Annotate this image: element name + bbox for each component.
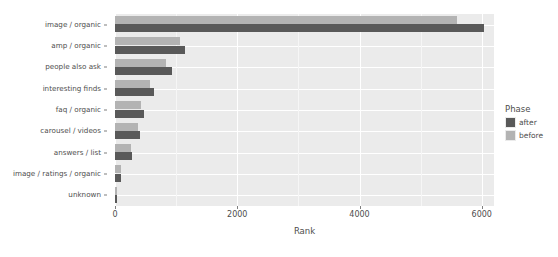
- y-axis-tick-mark: [104, 67, 107, 68]
- gridline-y: [115, 67, 494, 68]
- bar-before: [115, 123, 138, 131]
- legend-title: Phase: [505, 104, 555, 114]
- gridline-y: [115, 89, 494, 90]
- y-axis-tick-label: people also ask: [0, 63, 101, 71]
- gridline-y: [115, 131, 494, 132]
- y-axis-tick-mark: [104, 88, 107, 89]
- plot-panel: [115, 14, 494, 206]
- x-axis-tick-mark: [482, 206, 483, 209]
- legend-key: [505, 130, 516, 141]
- y-axis-tick-label: image / organic: [0, 21, 101, 29]
- bar-before: [115, 16, 457, 24]
- bar-after: [115, 152, 132, 160]
- bar-before: [115, 187, 117, 195]
- y-axis-tick-mark: [104, 24, 107, 25]
- legend-item: before: [505, 130, 555, 141]
- legend: Phase afterbefore: [505, 104, 555, 143]
- bar-before: [115, 80, 150, 88]
- y-axis-tick-label: answers / list: [0, 149, 101, 157]
- x-axis-tick-label: 2000: [217, 210, 257, 219]
- x-axis-tick-label: 6000: [462, 210, 502, 219]
- gridline-x-minor: [421, 14, 422, 206]
- bar-after: [115, 131, 140, 139]
- bar-before: [115, 37, 180, 45]
- bar-before: [115, 144, 131, 152]
- x-axis-title: Rank: [115, 226, 494, 236]
- y-axis-tick-label: carousel / videos: [0, 127, 101, 135]
- x-axis-tick-label: 4000: [340, 210, 380, 219]
- bar-before: [115, 101, 141, 109]
- bar-after: [115, 195, 117, 203]
- x-axis-tick-mark: [237, 206, 238, 209]
- gridline-x-minor: [298, 14, 299, 206]
- gridline-y: [115, 195, 494, 196]
- x-axis-tick-label: 0: [95, 210, 135, 219]
- bar-after: [115, 174, 121, 182]
- y-axis-tick-mark: [104, 174, 107, 175]
- legend-items: afterbefore: [505, 117, 555, 141]
- y-axis-tick-mark: [104, 131, 107, 132]
- gridline-x: [482, 14, 483, 206]
- legend-label: after: [519, 118, 537, 127]
- y-axis-tick-label: unknown: [0, 191, 101, 199]
- gridline-y: [115, 110, 494, 111]
- bar-before: [115, 59, 166, 67]
- y-axis-tick-mark: [104, 46, 107, 47]
- gridline-y: [115, 153, 494, 154]
- bar-after: [115, 88, 154, 96]
- gridline-x: [360, 14, 361, 206]
- bar-after: [115, 110, 144, 118]
- bar-after: [115, 67, 172, 75]
- legend-key: [505, 117, 516, 128]
- y-axis-tick-mark: [104, 152, 107, 153]
- y-axis: image / organicamp / organicpeople also …: [0, 14, 110, 206]
- bar-before: [115, 165, 121, 173]
- y-axis-tick-label: amp / organic: [0, 42, 101, 50]
- x-axis: 0200040006000: [115, 206, 494, 222]
- legend-swatch-before: [506, 131, 515, 140]
- legend-swatch-after: [506, 118, 515, 127]
- bar-after: [115, 46, 185, 54]
- gridline-y: [115, 174, 494, 175]
- y-axis-tick-label: image / ratings / organic: [0, 170, 101, 178]
- gridline-x: [237, 14, 238, 206]
- x-axis-tick-mark: [115, 206, 116, 209]
- legend-item: after: [505, 117, 555, 128]
- y-axis-tick-mark: [104, 110, 107, 111]
- y-axis-tick-label: faq / organic: [0, 106, 101, 114]
- y-axis-tick-label: interesting finds: [0, 85, 101, 93]
- bar-after: [115, 24, 484, 32]
- bar-chart: image / organicamp / organicpeople also …: [0, 0, 558, 257]
- legend-label: before: [519, 131, 543, 140]
- y-axis-tick-mark: [104, 195, 107, 196]
- x-axis-tick-mark: [360, 206, 361, 209]
